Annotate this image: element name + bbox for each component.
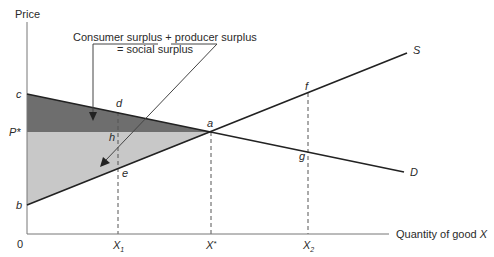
x1-sub: 1 bbox=[120, 246, 124, 253]
producer-surplus-text: producer surplus bbox=[175, 31, 257, 43]
xstar-sup: * bbox=[213, 239, 217, 248]
x2-tick-label: X2 bbox=[302, 239, 314, 253]
point-f-label: f bbox=[305, 80, 309, 92]
surplus-diagram: Price 0 Quantity of good X c b P* a d h … bbox=[0, 0, 494, 257]
point-c-label: c bbox=[16, 88, 22, 100]
x-axis-label-text: Quantity of good bbox=[396, 228, 480, 240]
y-axis-label: Price bbox=[15, 8, 40, 20]
point-b-label: b bbox=[16, 199, 22, 211]
point-a-label: a bbox=[207, 117, 213, 129]
social-surplus-text: = social surplus bbox=[117, 43, 194, 55]
point-e-label: e bbox=[122, 167, 128, 179]
xstar-tick-label: X* bbox=[205, 239, 217, 251]
p-star-label: P* bbox=[9, 126, 21, 138]
demand-label: D bbox=[410, 166, 418, 178]
point-h-label: h bbox=[109, 131, 115, 143]
surplus-annotation: Consumer surplus + producer surplus bbox=[73, 31, 257, 43]
plus-text: + bbox=[162, 31, 175, 43]
point-g-label: g bbox=[299, 150, 306, 162]
x1-tick-label: X1 bbox=[112, 239, 124, 253]
consumer-surplus-text: Consumer surplus bbox=[73, 31, 163, 43]
x2-sub: 2 bbox=[309, 246, 314, 253]
x-axis-label-var: X bbox=[479, 228, 488, 240]
x-axis-label: Quantity of good X bbox=[396, 228, 488, 240]
supply-label: S bbox=[413, 44, 421, 56]
point-d-label: d bbox=[116, 97, 123, 109]
origin-label: 0 bbox=[17, 238, 23, 250]
